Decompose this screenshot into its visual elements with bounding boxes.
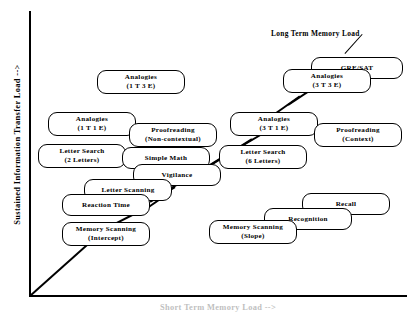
node-label-line1: Analogies xyxy=(125,73,157,82)
node-label-line1: Analogies xyxy=(311,72,343,81)
node-label-line1: Letter Search xyxy=(240,148,285,157)
node-label-line1: Reaction Time xyxy=(82,201,130,210)
node-label-line2: (Slope) xyxy=(241,232,264,241)
node-letter-search-6[interactable]: Letter Search(6 Letters) xyxy=(219,145,307,169)
node-label-line1: Analogies xyxy=(258,115,290,124)
x-axis-label: Short Term Memory Load --> xyxy=(29,303,407,317)
node-analogies-3t3e[interactable]: Analogies(3 T 3 E) xyxy=(283,69,371,93)
node-memory-scanning-slope[interactable]: Memory Scanning(Slope) xyxy=(209,220,297,244)
node-memory-scanning-intercept[interactable]: Memory Scanning(Intercept) xyxy=(62,222,150,246)
node-label-line1: Letter Search xyxy=(59,147,104,156)
node-analogies-3t1e[interactable]: Analogies(3 T 1 E) xyxy=(230,112,318,136)
node-proofreading-noncontextual[interactable]: Proofreading(Non-contextual) xyxy=(129,123,217,147)
y-axis-line xyxy=(29,11,31,297)
node-label-line2: (2 Letters) xyxy=(64,156,99,165)
node-label-line2: (6 Letters) xyxy=(245,157,280,166)
node-letter-search-2[interactable]: Letter Search(2 Letters) xyxy=(38,144,126,168)
node-label-line1: Memory Scanning xyxy=(223,223,283,232)
node-label-line2: (1 T 1 E) xyxy=(77,124,106,133)
x-axis-line xyxy=(29,295,407,297)
node-label-line2: (Non-contextual) xyxy=(145,135,201,144)
node-analogies-1t1e[interactable]: Analogies(1 T 1 E) xyxy=(48,112,136,136)
node-label-line1: Vigilance xyxy=(162,171,193,180)
node-proofreading-context[interactable]: Proofreading(Context) xyxy=(314,123,402,147)
node-label-line2: (1 T 3 E) xyxy=(126,82,155,91)
node-label-line1: Memory Scanning xyxy=(76,225,136,234)
node-analogies-1t3e[interactable]: Analogies(1 T 3 E) xyxy=(97,70,185,94)
node-reaction-time[interactable]: Reaction Time xyxy=(62,194,150,216)
node-label-line2: (3 T 3 E) xyxy=(312,81,341,90)
node-label-line2: (3 T 1 E) xyxy=(259,124,288,133)
figure-canvas: Sustained Information Transfer Load --> … xyxy=(0,0,410,317)
node-label-line2: (Intercept) xyxy=(88,234,124,243)
node-label-line1: Analogies xyxy=(76,115,108,124)
long-term-memory-load-annotation: Long Term Memory Load xyxy=(271,29,360,38)
node-label-line1: Proofreading xyxy=(151,126,195,135)
y-axis-label: Sustained Information Transfer Load --> xyxy=(13,45,22,245)
node-label-line2: (Context) xyxy=(342,135,373,144)
node-label-line1: Simple Math xyxy=(145,154,188,163)
node-label-line1: Proofreading xyxy=(336,126,380,135)
